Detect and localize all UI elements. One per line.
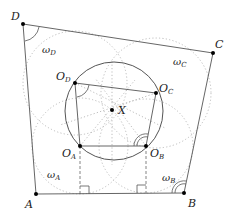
point-oa (78, 144, 82, 148)
point-d (21, 22, 25, 26)
label-oc: OC (159, 82, 174, 96)
geometry-diagram: A B C D OA OB OC OD X ωA ωB ωC ωD (0, 0, 237, 218)
point-x (110, 108, 114, 112)
angle-mark-od (77, 85, 89, 97)
label-oa: OA (62, 147, 76, 161)
label-omega-a: ωA (47, 169, 60, 182)
labels: A B C D OA OB OC OD X ωA ωB ωC ωD (10, 10, 224, 211)
label-x: X (117, 104, 127, 117)
point-od (73, 81, 77, 85)
label-od: OD (56, 70, 71, 84)
point-c (211, 51, 215, 55)
right-angle-a (80, 186, 89, 194)
label-c: C (215, 38, 224, 51)
line-oc-x (60, 93, 156, 125)
point-b (182, 191, 186, 195)
label-a: A (24, 198, 33, 211)
label-d: D (10, 10, 20, 23)
label-ob: OB (150, 147, 164, 161)
label-omega-b: ωB (162, 172, 175, 185)
label-b: B (187, 197, 196, 210)
point-a (34, 192, 38, 196)
label-omega-c: ωC (173, 56, 187, 69)
point-ob (144, 144, 148, 148)
quadrilateral-centers (75, 83, 156, 146)
right-angle-b (137, 185, 146, 193)
angle-mark-d (25, 27, 39, 41)
point-oc (154, 91, 158, 95)
label-omega-d: ωD (42, 44, 56, 57)
